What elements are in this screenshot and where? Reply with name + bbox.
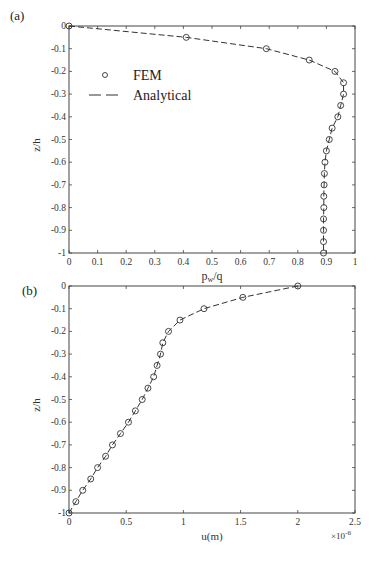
y-tick-label: 0 <box>61 281 66 291</box>
fem-marker <box>329 125 335 131</box>
x-tick-label: 0.9 <box>320 257 332 267</box>
analytical-line <box>69 26 344 253</box>
y-tick-label: -1 <box>58 248 66 258</box>
legend-analytical-label: Analytical <box>133 88 191 103</box>
plot-frame-b <box>69 286 355 513</box>
fem-marker <box>151 374 157 380</box>
x-tick-label: 0.5 <box>206 257 218 267</box>
y-tick-label: -0.7 <box>51 440 66 450</box>
x-tick-label: 0.8 <box>292 257 304 267</box>
y-tick-label: -0.4 <box>51 372 66 382</box>
y-tick-label: -0.9 <box>51 225 66 235</box>
y-tick-label: -0.3 <box>51 349 66 359</box>
x-axis-label-b: u(m) <box>201 530 223 543</box>
panel-label-a: (a) <box>10 8 24 23</box>
y-axis-label-a: z/h <box>30 138 42 152</box>
y-tick-label: -0.9 <box>51 485 66 495</box>
series-b <box>66 283 301 516</box>
fem-marker <box>95 465 101 471</box>
y-ticks-b: 0-0.1-0.2-0.3-0.4-0.5-0.6-0.7-0.8-0.9-1 <box>51 281 355 518</box>
fem-marker <box>341 91 347 97</box>
y-ticks-a: 0-0.1-0.2-0.3-0.4-0.5-0.6-0.7-0.8-0.9-1 <box>51 21 355 258</box>
x-tick-label: 2 <box>295 517 300 527</box>
y-tick-label: -0.5 <box>51 135 66 145</box>
legend-fem-marker-icon <box>103 73 108 78</box>
x-tick-label: 0.6 <box>235 257 247 267</box>
y-axis-label-b: z/h <box>30 398 42 412</box>
x-tick-label: 0 <box>67 257 72 267</box>
y-tick-label: 0 <box>61 21 66 31</box>
x-axis-label-a: pw/q <box>201 269 222 284</box>
x-tick-label: 1 <box>353 257 358 267</box>
x-tick-label: 0 <box>67 517 72 527</box>
series-a <box>66 23 347 256</box>
figure: 00.10.20.30.40.50.60.70.80.91 0-0.1-0.2-… <box>0 0 379 563</box>
y-tick-label: -0.6 <box>51 157 66 167</box>
x-tick-label: 2.5 <box>349 517 361 527</box>
x-tick-label: 0.3 <box>149 257 161 267</box>
x-tick-label: 1 <box>181 517 186 527</box>
chart-panel-a: 00.10.20.30.40.50.60.70.80.91 0-0.1-0.2-… <box>10 8 358 284</box>
y-tick-label: -0.7 <box>51 180 66 190</box>
x-tick-label: 1.5 <box>235 517 247 527</box>
panel-label-b: (b) <box>22 283 37 298</box>
y-tick-label: -0.4 <box>51 112 66 122</box>
x-ticks-b: 00.511.522.5 <box>67 286 362 527</box>
x-tick-label: 0.1 <box>92 257 104 267</box>
x-axis-multiplier-b: ×10-6 <box>331 529 351 541</box>
x-tick-label: 0.5 <box>120 517 132 527</box>
y-tick-label: -0.8 <box>51 463 66 473</box>
y-tick-label: -0.8 <box>51 203 66 213</box>
y-tick-label: -1 <box>58 508 66 518</box>
y-tick-label: -0.5 <box>51 395 66 405</box>
x-tick-label: 0.2 <box>120 257 132 267</box>
y-tick-label: -0.6 <box>51 417 66 427</box>
y-tick-label: -0.1 <box>51 304 66 314</box>
legend-fem-label: FEM <box>133 68 162 83</box>
fem-marker <box>109 442 115 448</box>
y-tick-label: -0.3 <box>51 89 66 99</box>
y-tick-label: -0.1 <box>51 44 66 54</box>
y-tick-label: -0.2 <box>51 66 66 76</box>
chart-panel-b: 00.511.522.5 0-0.1-0.2-0.3-0.4-0.5-0.6-0… <box>22 281 361 543</box>
x-tick-label: 0.7 <box>263 257 275 267</box>
legend: FEM Analytical <box>89 68 191 103</box>
x-tick-label: 0.4 <box>177 257 189 267</box>
fem-marker <box>80 487 86 493</box>
fem-marker <box>201 306 207 312</box>
y-tick-label: -0.2 <box>51 326 66 336</box>
